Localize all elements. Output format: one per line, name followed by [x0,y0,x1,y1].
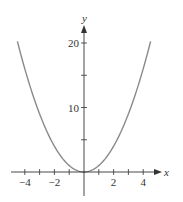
x-tick-label: 2 [111,176,117,188]
parabola-chart: −4−2241020xy [0,0,183,202]
y-tick-label: 20 [68,37,80,49]
x-axis-label: x [163,166,169,178]
x-tick-label: −4 [19,176,31,188]
labels: −4−2241020xy [19,12,169,188]
y-tick-label: 10 [68,102,80,114]
y-axis-arrow-icon [81,25,87,33]
y-axis-label: y [81,12,87,24]
x-axis-arrow-icon [154,169,162,175]
x-tick-label: −2 [49,176,61,188]
x-tick-label: 4 [140,176,146,188]
axes [11,25,162,196]
